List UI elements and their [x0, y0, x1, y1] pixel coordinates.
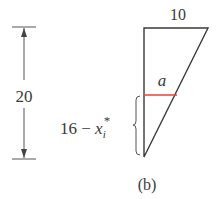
distance-label: 16 − xi*	[60, 113, 110, 140]
triangle-diagram: 20 10 a 16 − xi* (b)	[0, 0, 221, 199]
top-width-label: 10	[170, 6, 186, 23]
triangle: 10	[144, 6, 208, 157]
distance-label-prefix: 16 −	[60, 119, 95, 138]
distance-label-sub: i	[103, 128, 106, 140]
triangle-outline	[144, 28, 208, 157]
height-label: 20	[16, 87, 33, 106]
brace-icon	[133, 96, 140, 155]
slice: a	[144, 71, 177, 95]
arrow-up-icon	[21, 28, 27, 37]
slice-width-label: a	[158, 71, 167, 90]
height-dimension: 20	[12, 27, 36, 159]
distance-label-sup: *	[104, 113, 111, 128]
figure-caption: (b)	[138, 176, 157, 194]
arrow-down-icon	[21, 149, 27, 158]
